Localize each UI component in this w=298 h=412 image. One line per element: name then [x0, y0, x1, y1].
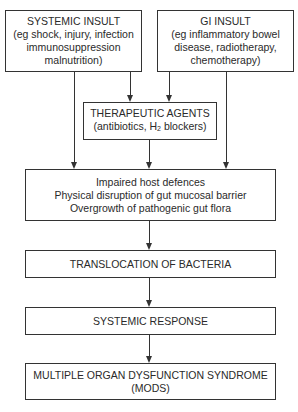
- therapeutic-agents-prefix: (antibiotics, H: [93, 120, 157, 132]
- connector-gi-to-therapeutic: [169, 72, 170, 95]
- connector-mechanisms-to-translocation: [149, 221, 150, 243]
- therapeutic-agents-suffix: blockers): [161, 120, 207, 132]
- mechanisms-line1: Impaired host defences: [96, 176, 205, 189]
- mechanisms-line3: Overgrowth of pathogenic gut flora: [70, 202, 231, 215]
- connector-systemic-to-therapeutic: [130, 72, 131, 95]
- arrowhead-icon: [166, 95, 172, 102]
- systemic-response-box: SYSTEMIC RESPONSE: [25, 307, 276, 335]
- mechanisms-line2: Physical disruption of gut mucosal barri…: [54, 189, 246, 202]
- arrowhead-icon: [71, 162, 77, 169]
- connector-gi-to-mechanisms: [226, 72, 227, 162]
- systemic-insult-line3: malnutrition): [45, 54, 103, 67]
- connector-therapeutic-to-mechanisms: [149, 140, 150, 162]
- systemic-insult-title: SYSTEMIC INSULT: [27, 15, 120, 28]
- systemic-response-title: SYSTEMIC RESPONSE: [93, 315, 208, 328]
- gi-insult-title: GI INSULT: [200, 15, 251, 28]
- arrowhead-icon: [223, 162, 229, 169]
- mods-box: MULTIPLE ORGAN DYSFUNCTION SYNDROME (MOD…: [25, 363, 276, 400]
- translocation-title: TRANSLOCATION OF BACTERIA: [70, 258, 231, 271]
- arrowhead-icon: [127, 95, 133, 102]
- mods-abbrev: (MODS): [131, 382, 170, 395]
- systemic-insult-line1: (eg shock, injury, infection: [13, 28, 134, 41]
- gi-insult-line2: disease, radiotherapy,: [174, 41, 277, 54]
- mechanisms-box: Impaired host defences Physical disrupti…: [25, 169, 276, 221]
- arrowhead-icon: [146, 356, 152, 363]
- gi-insult-box: GI INSULT (eg inflammatory bowel disease…: [157, 10, 294, 72]
- connector-systemic-to-mechanisms: [74, 72, 75, 162]
- therapeutic-agents-box: THERAPEUTIC AGENTS (antibiotics, H2 bloc…: [83, 102, 217, 140]
- systemic-insult-line2: immunosuppression: [27, 41, 121, 54]
- therapeutic-agents-examples: (antibiotics, H2 blockers): [93, 120, 206, 135]
- connector-translocation-to-response: [149, 278, 150, 300]
- translocation-box: TRANSLOCATION OF BACTERIA: [25, 250, 276, 278]
- therapeutic-agents-title: THERAPEUTIC AGENTS: [90, 107, 210, 120]
- arrowhead-icon: [146, 300, 152, 307]
- arrowhead-icon: [146, 162, 152, 169]
- connector-response-to-mods: [149, 335, 150, 356]
- gi-insult-line1: (eg inflammatory bowel: [171, 28, 280, 41]
- gi-insult-line3: chemotherapy): [190, 54, 260, 67]
- mods-title: MULTIPLE ORGAN DYSFUNCTION SYNDROME: [33, 369, 267, 382]
- arrowhead-icon: [146, 243, 152, 250]
- systemic-insult-box: SYSTEMIC INSULT (eg shock, injury, infec…: [5, 10, 142, 72]
